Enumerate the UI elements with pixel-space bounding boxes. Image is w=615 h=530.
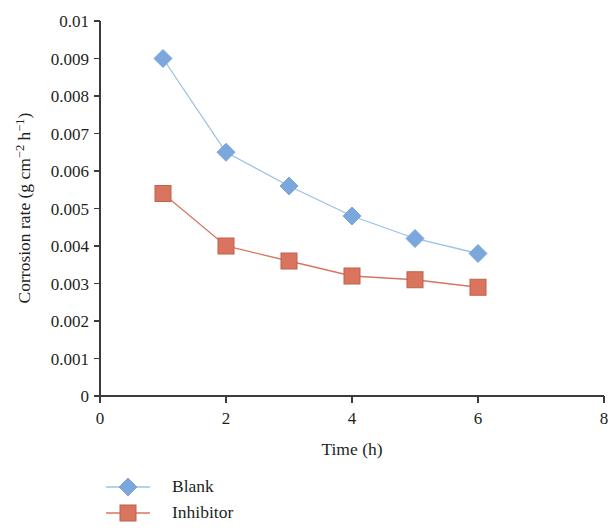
x-tick-label: 6: [474, 409, 483, 428]
chart-legend: BlankInhibitor: [106, 476, 233, 522]
data-point-marker: [469, 245, 487, 263]
y-tick-label: 0.004: [51, 237, 90, 256]
y-axis-title-exponent-2: −1: [13, 118, 27, 131]
corrosion-rate-chart-figure: 00.0010.0020.0030.0040.0050.0060.0070.00…: [0, 0, 615, 530]
data-point-marker: [155, 186, 171, 202]
y-axis-title-middle: h: [14, 131, 34, 144]
data-point-marker: [407, 272, 423, 288]
data-point-marker: [280, 177, 298, 195]
y-tick-label: 0.002: [51, 312, 89, 331]
x-tick-label: 0: [96, 409, 105, 428]
legend-label: Inhibitor: [172, 502, 233, 522]
data-point-marker: [406, 230, 424, 248]
y-axis-title: Corrosion rate (g cm−2 h−1): [13, 112, 34, 303]
data-point-marker: [344, 268, 360, 284]
x-tick-label: 8: [600, 409, 609, 428]
series-line: [163, 194, 478, 288]
legend-label: Blank: [172, 476, 214, 496]
series-inhibitor: [155, 186, 486, 296]
data-point-marker: [281, 253, 297, 269]
chart-canvas: 00.0010.0020.0030.0040.0050.0060.0070.00…: [0, 0, 615, 530]
x-tick-label: 4: [348, 409, 357, 428]
legend-item-blank[interactable]: Blank: [106, 476, 214, 496]
data-point-marker: [217, 143, 235, 161]
series-line: [163, 59, 478, 254]
y-tick-label: 0.006: [51, 162, 89, 181]
y-tick-label: 0: [81, 387, 90, 406]
y-tick-label: 0.005: [51, 200, 89, 219]
y-tick-label: 0.003: [51, 275, 89, 294]
y-axis-title-prefix: Corrosion rate (g cm: [14, 158, 34, 304]
x-tick-label: 2: [222, 409, 231, 428]
y-tick-label: 0.001: [51, 350, 89, 369]
y-tick-label: 0.009: [51, 50, 89, 69]
x-axis-ticks: 02468: [96, 396, 609, 428]
y-tick-label: 0.008: [51, 87, 89, 106]
y-axis-title-exponent-1: −2: [13, 145, 27, 158]
legend-diamond-marker: [119, 478, 137, 496]
data-point-marker: [218, 238, 234, 254]
legend-square-marker: [120, 505, 136, 521]
data-point-marker: [154, 50, 172, 68]
x-axis-title: Time (h): [321, 439, 382, 459]
y-axis-title-suffix: ): [14, 112, 34, 118]
data-point-marker: [470, 279, 486, 295]
y-axis-ticks: 00.0010.0020.0030.0040.0050.0060.0070.00…: [51, 12, 100, 406]
legend-item-inhibitor[interactable]: Inhibitor: [106, 502, 233, 522]
series-blank: [154, 50, 487, 263]
y-tick-label: 0.01: [59, 12, 89, 31]
y-tick-label: 0.007: [51, 125, 90, 144]
data-series-layer: [154, 50, 487, 296]
data-point-marker: [343, 207, 361, 225]
